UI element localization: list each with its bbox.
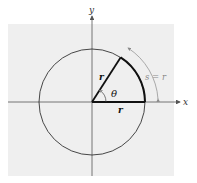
arc-length-label: s = r <box>145 72 167 82</box>
x-axis-label: x <box>183 97 188 107</box>
background-panel <box>8 24 174 176</box>
radian-diagram: x y r r θ s = r <box>0 0 197 183</box>
angle-label: θ <box>111 88 117 99</box>
y-axis-label: y <box>88 5 95 15</box>
